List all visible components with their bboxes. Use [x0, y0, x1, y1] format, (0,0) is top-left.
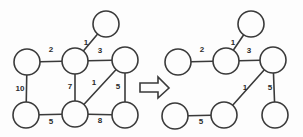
graph-node	[260, 47, 286, 73]
edge-weight-label: 1	[92, 78, 97, 87]
graph-edge	[84, 70, 116, 105]
graph-node	[238, 11, 264, 37]
edge-weight-label: 5	[199, 117, 204, 126]
edge-weight-label: 5	[268, 83, 273, 92]
edge-weight-label: 5	[49, 117, 54, 126]
edge-weight-label: 10	[16, 84, 25, 93]
right-graph-nodes	[162, 11, 288, 129]
graph-node	[93, 11, 119, 37]
graph-edge	[233, 70, 265, 106]
edge-weight-label: 5	[116, 82, 121, 91]
graph-node	[211, 102, 237, 128]
graph-node	[162, 103, 188, 129]
edge-weight-label: 3	[98, 46, 103, 55]
edge-weight-label: 7	[68, 82, 73, 91]
graph-edge	[26, 75, 27, 102]
graph-node	[14, 49, 40, 75]
right-arrow-icon	[140, 77, 169, 98]
graph-node	[165, 49, 191, 75]
graph-canvas: 1231071558 123155	[0, 0, 303, 137]
graph-node	[213, 48, 239, 74]
graph-node	[112, 47, 138, 73]
graph-node	[62, 48, 88, 74]
edge-weight-label: 1	[243, 83, 248, 92]
edge-weight-label: 2	[49, 45, 54, 54]
edge-weight-label: 8	[98, 116, 103, 125]
edge-weight-label: 1	[84, 38, 89, 47]
graph-transformation-diagram: 1231071558 123155	[0, 0, 303, 137]
graph-node	[262, 102, 288, 128]
left-graph-nodes	[13, 11, 138, 128]
graph-edge	[273, 73, 274, 102]
graph-node	[13, 102, 39, 128]
graph-node	[62, 101, 88, 127]
edge-weight-label: 3	[247, 46, 252, 55]
edge-weight-label: 2	[200, 45, 205, 54]
graph-node	[112, 102, 138, 128]
edge-weight-label: 1	[231, 38, 236, 47]
